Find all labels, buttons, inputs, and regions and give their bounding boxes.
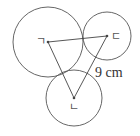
point-digeut [106,35,109,38]
point-nieun [73,97,76,100]
label-digeut: ㄷ [111,30,121,43]
segment-giyeok-digeut [48,36,107,42]
three-circles-diagram: ㄱ ㄷ ㄴ 9 cm [0,0,140,136]
label-nieun: ㄴ [69,101,79,114]
measurement-label: 9 cm [95,65,123,80]
point-giyeok [47,41,50,44]
label-giyeok: ㄱ [36,35,46,48]
